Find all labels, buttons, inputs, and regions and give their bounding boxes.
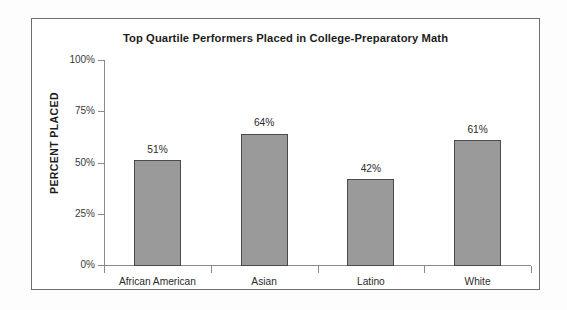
bar-value-white: 61%	[437, 124, 518, 135]
category-label-latino: Latino	[311, 276, 431, 287]
bar-african-american	[134, 160, 181, 266]
y-tick-label-100-wrap: 100%	[32, 54, 95, 66]
x-tick-2	[318, 266, 319, 273]
bar-latino	[347, 179, 394, 266]
y-tick-label-100: 100%	[41, 54, 95, 65]
y-tick-label-50-wrap: 50%	[32, 157, 95, 169]
y-tick-75	[98, 111, 105, 112]
bar-value-asian: 64%	[224, 117, 305, 128]
bar-asian	[241, 134, 288, 266]
bar-value-latino: 42%	[330, 163, 411, 174]
y-tick-label-0-wrap: 0%	[32, 259, 95, 271]
category-label-asian: Asian	[204, 276, 324, 287]
y-tick-label-75: 75%	[41, 105, 95, 116]
y-tick-label-0: 0%	[41, 259, 95, 270]
plot-area: 100% 75% 50% 25% 0%	[32, 19, 541, 291]
y-tick-label-75-wrap: 75%	[32, 105, 95, 117]
y-tick-label-25-wrap: 25%	[32, 208, 95, 220]
category-label-african-american: African American	[97, 276, 217, 287]
chart-figure: Top Quartile Performers Placed in Colleg…	[0, 0, 567, 310]
y-tick-25	[98, 214, 105, 215]
y-tick-label-50: 50%	[41, 157, 95, 168]
category-label-white: White	[418, 276, 538, 287]
bar-white	[454, 140, 501, 266]
x-tick-0	[104, 266, 105, 273]
y-tick-100	[98, 60, 105, 61]
x-tick-1	[211, 266, 212, 273]
chart-frame: Top Quartile Performers Placed in Colleg…	[31, 18, 540, 290]
bar-value-african-american: 51%	[117, 144, 198, 155]
x-tick-4	[531, 266, 532, 273]
x-tick-3	[424, 266, 425, 273]
y-tick-label-25: 25%	[41, 208, 95, 219]
y-tick-50	[98, 163, 105, 164]
